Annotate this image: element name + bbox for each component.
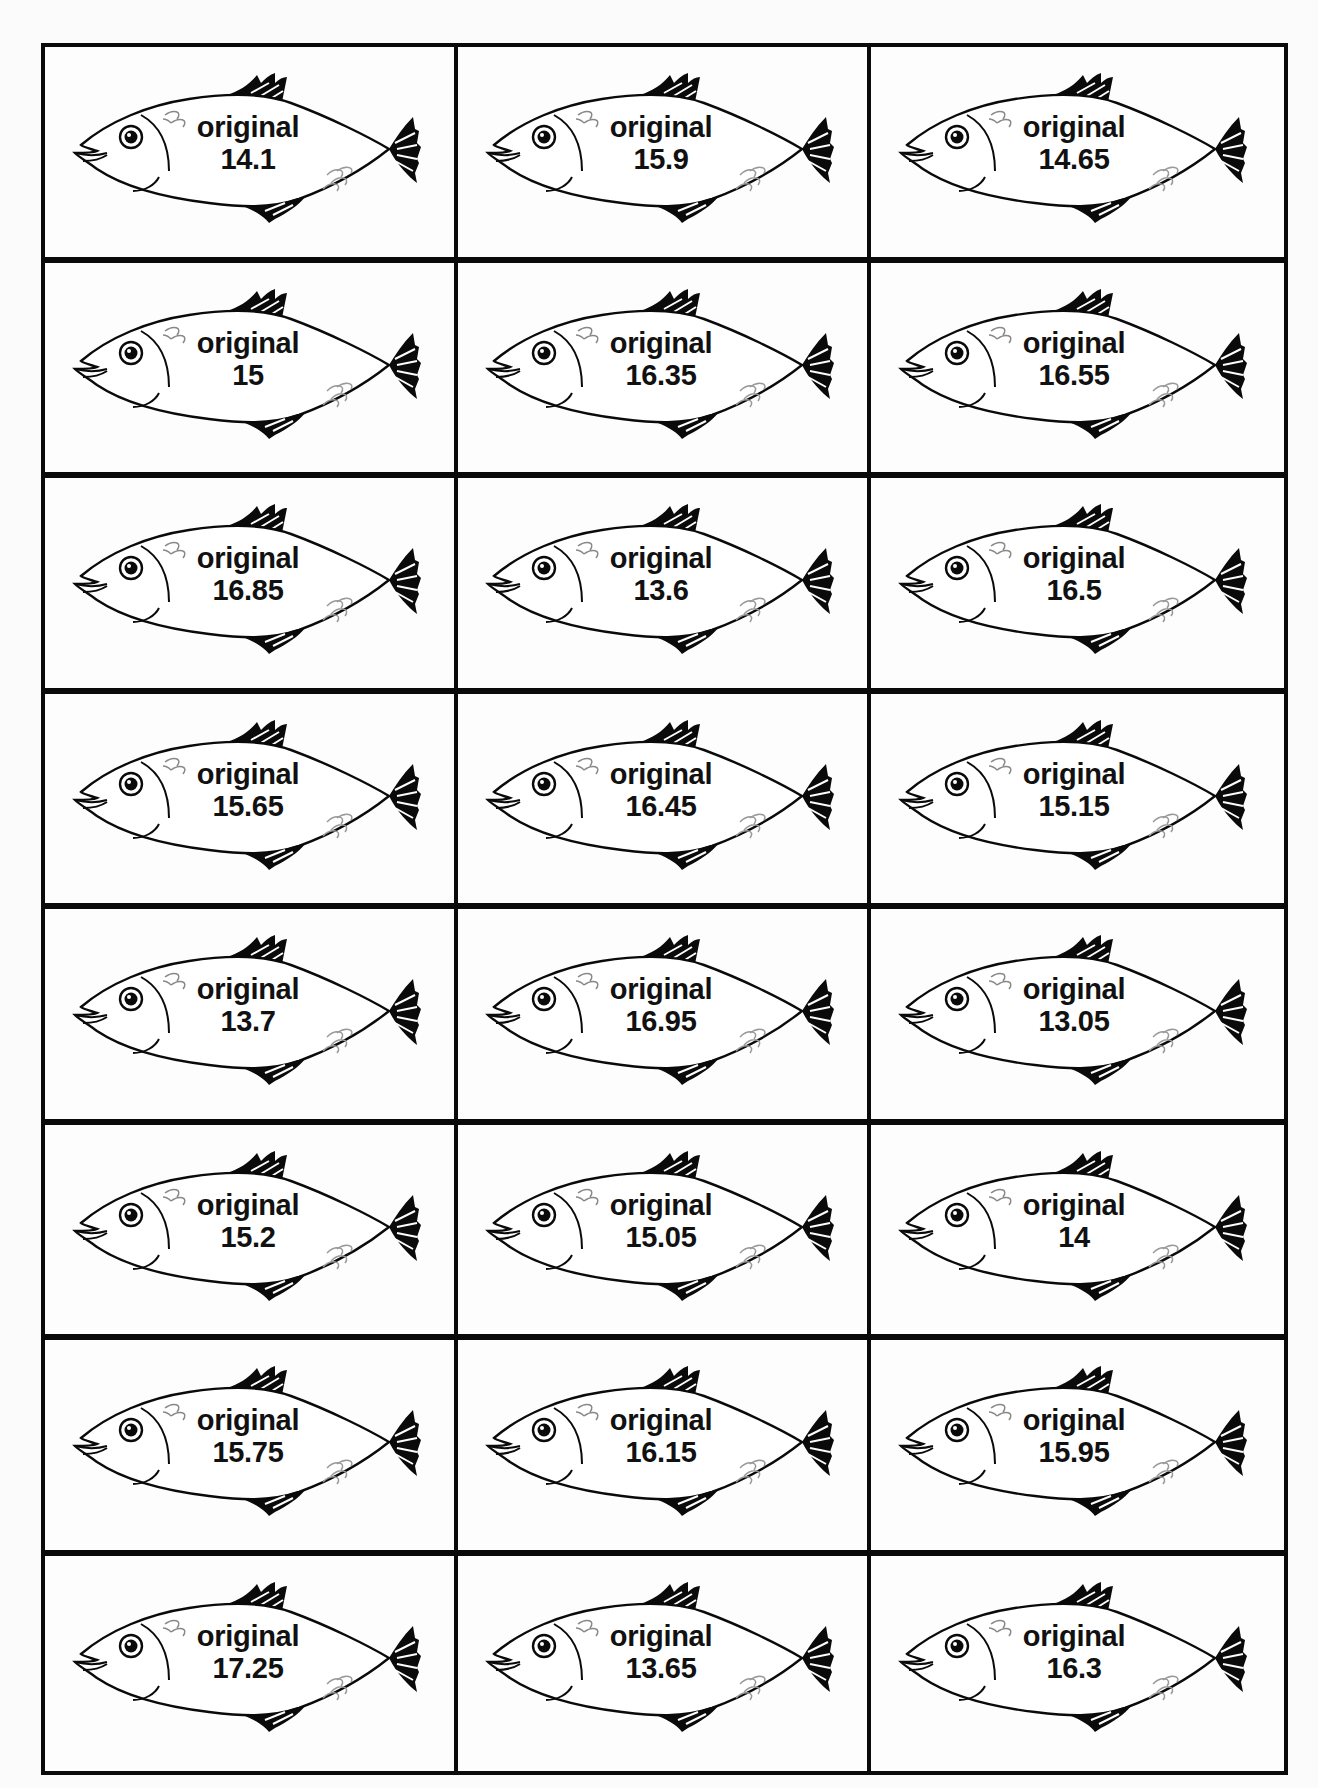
label-word: original bbox=[576, 327, 746, 359]
label-value: 16.45 bbox=[576, 790, 746, 822]
fish-card-19[interactable]: original 15.75 bbox=[45, 1340, 458, 1556]
fish-card-21[interactable]: original 15.95 bbox=[871, 1340, 1284, 1556]
label-value: 15.15 bbox=[989, 790, 1159, 822]
fish-label: original 15 bbox=[163, 327, 333, 392]
fish-card-sheet: original 14.1 bbox=[41, 43, 1288, 1775]
fish-label: original 15.9 bbox=[576, 111, 746, 176]
fish-card-8[interactable]: original 13.6 bbox=[458, 478, 871, 694]
fish-label: original 16.95 bbox=[576, 973, 746, 1038]
label-value: 15.9 bbox=[576, 143, 746, 175]
label-word: original bbox=[989, 973, 1159, 1005]
label-value: 16.3 bbox=[989, 1652, 1159, 1684]
label-value: 17.25 bbox=[163, 1652, 333, 1684]
label-word: original bbox=[576, 1620, 746, 1652]
label-word: original bbox=[163, 1404, 333, 1436]
label-value: 14.1 bbox=[163, 143, 333, 175]
label-word: original bbox=[576, 973, 746, 1005]
fish-label: original 16.3 bbox=[989, 1620, 1159, 1685]
fish-card-18[interactable]: original 14 bbox=[871, 1125, 1284, 1341]
fish-card-15[interactable]: original 13.05 bbox=[871, 909, 1284, 1125]
fish-label: original 16.85 bbox=[163, 542, 333, 607]
label-value: 13.6 bbox=[576, 574, 746, 606]
label-value: 15.65 bbox=[163, 790, 333, 822]
label-value: 15.05 bbox=[576, 1221, 746, 1253]
label-word: original bbox=[163, 1189, 333, 1221]
fish-card-10[interactable]: original 15.65 bbox=[45, 694, 458, 910]
fish-label: original 14 bbox=[989, 1189, 1159, 1254]
label-value: 15 bbox=[163, 359, 333, 391]
fish-label: original 16.55 bbox=[989, 327, 1159, 392]
label-value: 16.35 bbox=[576, 359, 746, 391]
label-value: 13.7 bbox=[163, 1005, 333, 1037]
fish-card-13[interactable]: original 13.7 bbox=[45, 909, 458, 1125]
label-word: original bbox=[163, 973, 333, 1005]
fish-card-12[interactable]: original 15.15 bbox=[871, 694, 1284, 910]
fish-card-24[interactable]: original 16.3 bbox=[871, 1556, 1284, 1772]
label-word: original bbox=[989, 327, 1159, 359]
fish-card-11[interactable]: original 16.45 bbox=[458, 694, 871, 910]
fish-card-6[interactable]: original 16.55 bbox=[871, 263, 1284, 479]
fish-card-5[interactable]: original 16.35 bbox=[458, 263, 871, 479]
fish-label: original 15.05 bbox=[576, 1189, 746, 1254]
fish-label: original 14.65 bbox=[989, 111, 1159, 176]
label-value: 14 bbox=[989, 1221, 1159, 1253]
fish-label: original 16.5 bbox=[989, 542, 1159, 607]
label-value: 13.05 bbox=[989, 1005, 1159, 1037]
label-word: original bbox=[576, 758, 746, 790]
label-value: 16.85 bbox=[163, 574, 333, 606]
label-value: 16.95 bbox=[576, 1005, 746, 1037]
fish-card-3[interactable]: original 14.65 bbox=[871, 47, 1284, 263]
label-word: original bbox=[163, 327, 333, 359]
label-word: original bbox=[989, 542, 1159, 574]
fish-card-14[interactable]: original 16.95 bbox=[458, 909, 871, 1125]
fish-card-22[interactable]: original 17.25 bbox=[45, 1556, 458, 1772]
fish-label: original 15.75 bbox=[163, 1404, 333, 1469]
fish-card-2[interactable]: original 15.9 bbox=[458, 47, 871, 263]
fish-label: original 15.2 bbox=[163, 1189, 333, 1254]
fish-label: original 15.95 bbox=[989, 1404, 1159, 1469]
fish-card-20[interactable]: original 16.15 bbox=[458, 1340, 871, 1556]
fish-label: original 13.7 bbox=[163, 973, 333, 1038]
label-word: original bbox=[163, 111, 333, 143]
fish-card-4[interactable]: original 15 bbox=[45, 263, 458, 479]
label-value: 16.15 bbox=[576, 1436, 746, 1468]
fish-label: original 15.15 bbox=[989, 758, 1159, 823]
fish-card-1[interactable]: original 14.1 bbox=[45, 47, 458, 263]
label-word: original bbox=[163, 758, 333, 790]
label-word: original bbox=[576, 111, 746, 143]
label-value: 16.55 bbox=[989, 359, 1159, 391]
label-word: original bbox=[576, 542, 746, 574]
label-word: original bbox=[576, 1404, 746, 1436]
label-word: original bbox=[989, 1189, 1159, 1221]
fish-label: original 13.05 bbox=[989, 973, 1159, 1038]
fish-label: original 17.25 bbox=[163, 1620, 333, 1685]
fish-label: original 16.45 bbox=[576, 758, 746, 823]
label-word: original bbox=[989, 1620, 1159, 1652]
label-value: 14.65 bbox=[989, 143, 1159, 175]
label-word: original bbox=[163, 1620, 333, 1652]
fish-label: original 13.65 bbox=[576, 1620, 746, 1685]
label-word: original bbox=[989, 111, 1159, 143]
fish-card-9[interactable]: original 16.5 bbox=[871, 478, 1284, 694]
label-value: 15.75 bbox=[163, 1436, 333, 1468]
label-word: original bbox=[576, 1189, 746, 1221]
label-word: original bbox=[163, 542, 333, 574]
fish-label: original 15.65 bbox=[163, 758, 333, 823]
fish-label: original 14.1 bbox=[163, 111, 333, 176]
label-value: 16.5 bbox=[989, 574, 1159, 606]
label-value: 15.2 bbox=[163, 1221, 333, 1253]
label-word: original bbox=[989, 1404, 1159, 1436]
fish-card-23[interactable]: original 13.65 bbox=[458, 1556, 871, 1772]
label-value: 13.65 bbox=[576, 1652, 746, 1684]
label-word: original bbox=[989, 758, 1159, 790]
fish-card-16[interactable]: original 15.2 bbox=[45, 1125, 458, 1341]
fish-card-17[interactable]: original 15.05 bbox=[458, 1125, 871, 1341]
fish-label: original 13.6 bbox=[576, 542, 746, 607]
fish-card-7[interactable]: original 16.85 bbox=[45, 478, 458, 694]
fish-label: original 16.15 bbox=[576, 1404, 746, 1469]
fish-label: original 16.35 bbox=[576, 327, 746, 392]
label-value: 15.95 bbox=[989, 1436, 1159, 1468]
